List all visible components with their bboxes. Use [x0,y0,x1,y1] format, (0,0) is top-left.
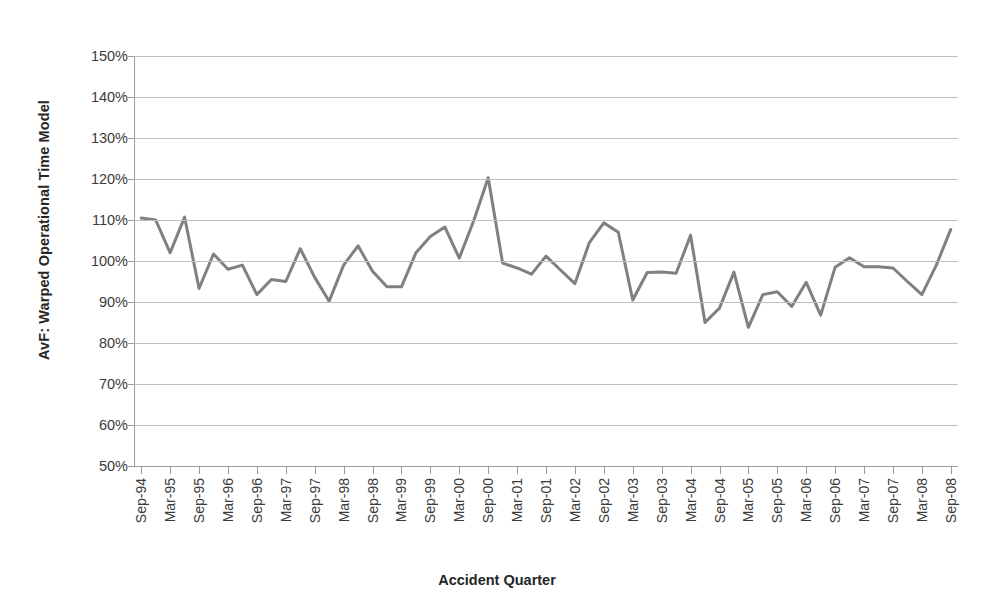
x-axis-tick-label: Sep-94 [133,478,149,523]
x-axis-tick [199,467,200,474]
x-axis-tick-label: Sep-97 [307,478,323,523]
x-axis-tick-label: Sep-01 [538,478,554,523]
y-axis-tick [128,384,134,385]
x-axis-tick-label: Mar-99 [393,478,409,522]
x-axis-tick-label: Sep-02 [596,478,612,523]
x-axis-tick-label: Sep-95 [191,478,207,523]
x-axis-tick-label: Mar-00 [451,478,467,522]
x-axis-tick [662,467,663,474]
x-axis-title: Accident Quarter [0,572,994,588]
x-axis-tick [575,467,576,474]
x-axis-tick-label: Mar-97 [278,478,294,522]
x-axis-tick [344,467,345,474]
x-axis-tick [170,467,171,474]
y-axis-tick [128,466,134,467]
x-axis-tick-label: Sep-08 [943,478,959,523]
x-axis-tick [401,467,402,474]
x-axis-tick-label: Sep-03 [654,478,670,523]
x-axis-tick [459,467,460,474]
y-axis-tick [128,97,134,98]
y-axis-tick [128,425,134,426]
x-axis-tick-label: Mar-95 [162,478,178,522]
x-axis-tick [922,467,923,474]
x-axis-tick-label: Sep-99 [422,478,438,523]
x-axis-tick [691,467,692,474]
x-axis-tick [286,467,287,474]
x-axis-tick-label: Mar-02 [567,478,583,522]
x-axis-tick-label: Sep-00 [480,478,496,523]
x-axis-tick-label: Sep-06 [827,478,843,523]
chart-container: AvF: Warped Operational Time Model 150%1… [0,0,994,606]
y-axis-tick [128,220,134,221]
x-axis-tick [228,467,229,474]
y-axis-tick [128,138,134,139]
y-axis-tick [128,302,134,303]
x-axis-tick-label: Sep-96 [249,478,265,523]
x-axis-tick-labels: Sep-94Mar-95Sep-95Mar-96Sep-96Mar-97Sep-… [0,0,994,606]
x-axis-tick [893,467,894,474]
x-axis-tick [806,467,807,474]
x-axis-tick-label: Mar-98 [336,478,352,522]
y-axis-tick [128,343,134,344]
x-axis-tick-label: Sep-04 [712,478,728,523]
x-axis-tick [864,467,865,474]
x-axis-tick [748,467,749,474]
x-axis-tick-label: Mar-96 [220,478,236,522]
x-axis-tick [720,467,721,474]
x-axis-tick [604,467,605,474]
x-axis-tick [141,467,142,474]
x-axis-tick [488,467,489,474]
y-axis-tick [128,261,134,262]
x-axis-tick [546,467,547,474]
x-axis-tick [517,467,518,474]
x-axis-tick-label: Mar-07 [856,478,872,522]
x-axis-tick [315,467,316,474]
x-axis-tick-label: Sep-98 [365,478,381,523]
x-axis-tick-label: Sep-05 [769,478,785,523]
x-axis-tick-label: Mar-04 [683,478,699,522]
x-axis-tick [430,467,431,474]
x-axis-tick-label: Mar-03 [625,478,641,522]
y-axis-tick [128,56,134,57]
y-axis-tick [128,179,134,180]
x-axis-tick [951,467,952,474]
x-axis-tick [373,467,374,474]
x-axis-tick-label: Mar-05 [740,478,756,522]
x-axis-tick [633,467,634,474]
x-axis-tick-label: Mar-08 [914,478,930,522]
x-axis-tick [257,467,258,474]
x-axis-tick [835,467,836,474]
x-axis-tick [777,467,778,474]
x-axis-tick-label: Mar-01 [509,478,525,522]
x-axis-tick-label: Sep-07 [885,478,901,523]
x-axis-tick-label: Mar-06 [798,478,814,522]
